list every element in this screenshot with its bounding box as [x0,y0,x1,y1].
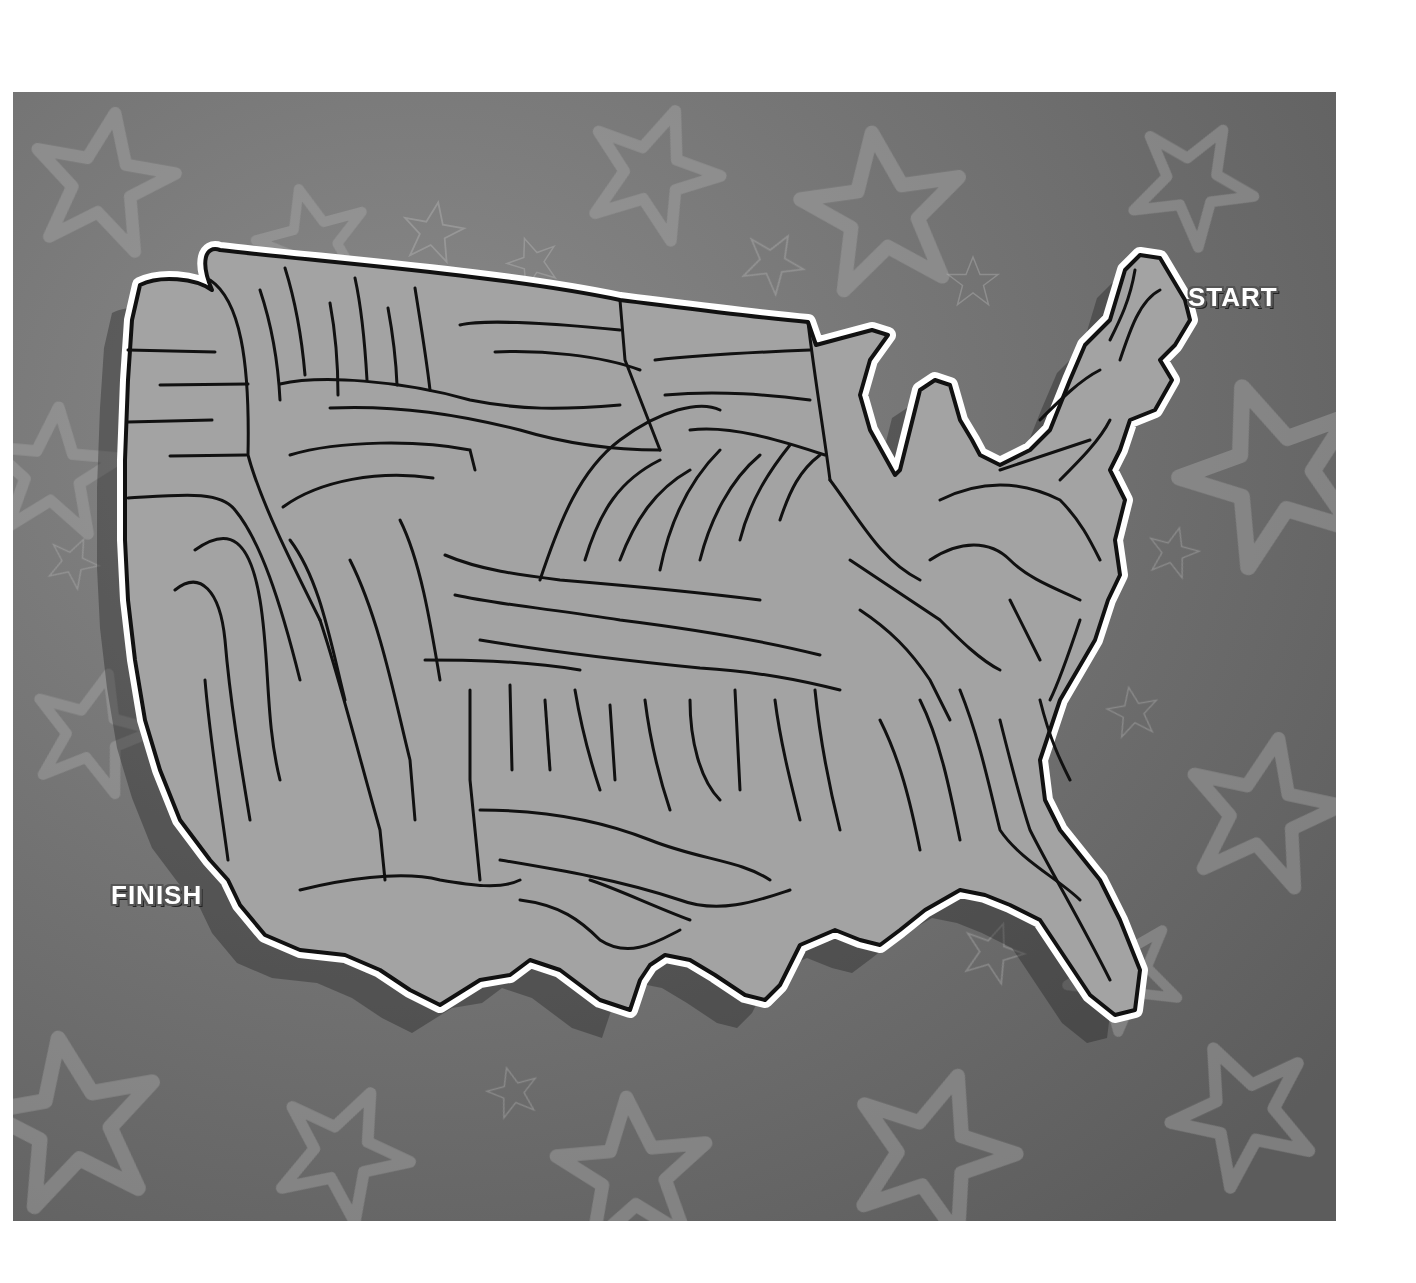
finish-label: FINISH [111,880,202,911]
usa-maze [0,0,1416,1283]
map-body [125,249,1190,1015]
start-label: START [1188,282,1278,313]
